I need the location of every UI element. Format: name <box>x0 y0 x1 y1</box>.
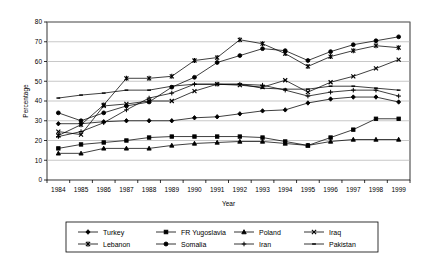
data-point <box>125 139 128 142</box>
data-point <box>147 136 150 139</box>
x-tick-label: 1995 <box>301 186 316 193</box>
y-tick-label: 20 <box>35 137 43 144</box>
data-point <box>261 47 265 51</box>
y-tick-label: 10 <box>35 157 43 164</box>
x-tick-label: 1984 <box>51 186 66 193</box>
x-tick-label: 1999 <box>391 186 406 193</box>
x-tick-label: 1989 <box>165 186 180 193</box>
x-tick-label: 1998 <box>369 186 384 193</box>
data-point <box>102 111 106 115</box>
y-tick-label: 50 <box>35 78 43 85</box>
data-point <box>193 75 197 79</box>
data-point <box>283 49 287 53</box>
x-axis-title: Year <box>222 200 236 207</box>
legend-label: Turkey <box>103 229 125 237</box>
legend-label: Iran <box>259 241 271 248</box>
x-tick-label: 1988 <box>142 186 157 193</box>
x-tick-label: 1997 <box>346 186 361 193</box>
data-point <box>397 117 400 120</box>
x-tick-label: 1991 <box>210 186 225 193</box>
legend-marker <box>164 230 168 234</box>
chart-container: 0102030405060708019841985198619871988198… <box>0 0 424 265</box>
x-tick-label: 1994 <box>278 186 293 193</box>
y-tick-label: 30 <box>35 117 43 124</box>
legend-label: Somalia <box>181 241 206 248</box>
y-tick-label: 0 <box>38 176 42 183</box>
legend-label: Lebanon <box>103 241 130 248</box>
x-tick-label: 1996 <box>323 186 338 193</box>
data-point <box>79 119 83 123</box>
data-point <box>102 141 105 144</box>
data-point <box>56 111 60 115</box>
data-point <box>238 54 242 58</box>
y-tick-label: 80 <box>35 18 43 25</box>
x-tick-label: 1990 <box>187 186 202 193</box>
data-point <box>215 135 218 138</box>
x-tick-label: 1993 <box>255 186 270 193</box>
y-axis-ticks: 01020304050607080 <box>35 18 47 183</box>
data-point <box>193 135 196 138</box>
legend: TurkeyFR YugoslaviaPolandIraqLebanonSoma… <box>66 222 378 252</box>
y-tick-label: 70 <box>35 38 43 45</box>
data-point <box>125 104 129 108</box>
y-tick-label: 60 <box>35 58 43 65</box>
x-tick-label: 1985 <box>74 186 89 193</box>
legend-label: FR Yugoslavia <box>181 229 226 237</box>
x-axis-ticks: 1984198519861987198819891990199119921993… <box>47 180 410 193</box>
x-tick-label: 1987 <box>119 186 134 193</box>
x-tick-label: 1992 <box>233 186 248 193</box>
data-point <box>170 135 173 138</box>
legend-label: Pakistan <box>329 241 356 248</box>
y-tick-label: 40 <box>35 97 43 104</box>
line-chart: 0102030405060708019841985198619871988198… <box>0 0 424 265</box>
x-tick-label: 1986 <box>96 186 111 193</box>
data-point <box>397 35 401 39</box>
legend-label: Poland <box>259 229 281 236</box>
data-point <box>79 143 82 146</box>
data-point <box>147 100 151 104</box>
data-point <box>215 61 219 65</box>
data-point <box>374 117 377 120</box>
data-point <box>57 147 60 150</box>
data-point <box>306 59 310 63</box>
data-point <box>351 43 355 47</box>
data-point <box>374 39 378 43</box>
legend-label: Iraq <box>329 229 341 237</box>
data-point <box>352 128 355 131</box>
data-point <box>329 50 333 54</box>
data-point <box>238 135 241 138</box>
legend-marker <box>164 242 168 246</box>
y-axis-title: Percentage <box>22 84 30 118</box>
